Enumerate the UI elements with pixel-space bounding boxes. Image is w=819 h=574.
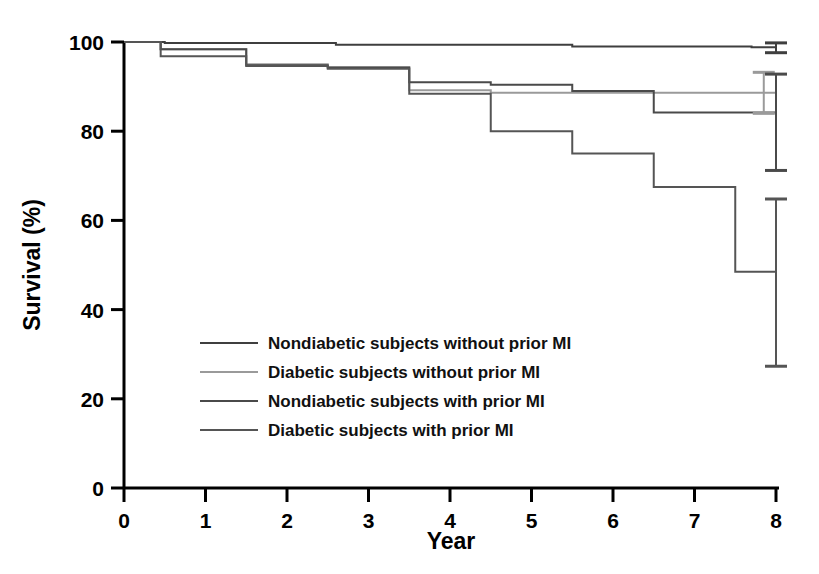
error-bars-group — [753, 43, 787, 366]
chart-canvas: 020406080100 012345678 Year Survival (%)… — [0, 0, 819, 574]
x-tick-label: 5 — [526, 509, 538, 532]
legend-label-2: Nondiabetic subjects with prior MI — [268, 392, 545, 411]
x-tick-label: 8 — [770, 509, 782, 532]
y-tick-label: 0 — [92, 477, 104, 500]
x-axis-title: Year — [427, 528, 476, 554]
chart-legend: Nondiabetic subjects without prior MIDia… — [200, 334, 571, 440]
x-tick-label: 1 — [200, 509, 212, 532]
y-axis-ticks — [111, 42, 124, 488]
series-group — [124, 42, 776, 272]
legend-label-0: Nondiabetic subjects without prior MI — [268, 334, 571, 353]
x-axis-ticks — [124, 488, 776, 502]
x-tick-label: 3 — [363, 509, 375, 532]
x-tick-label: 7 — [689, 509, 701, 532]
series-line-2 — [124, 42, 776, 115]
y-tick-label: 60 — [81, 209, 104, 232]
error-bar-2 — [765, 74, 787, 170]
y-axis-tick-labels: 020406080100 — [69, 31, 104, 500]
y-axis-title: Survival (%) — [19, 199, 45, 331]
x-tick-label: 2 — [281, 509, 293, 532]
legend-label-3: Diabetic subjects with prior MI — [268, 421, 514, 440]
error-bar-3 — [765, 199, 787, 366]
y-tick-label: 80 — [81, 120, 104, 143]
x-tick-label: 0 — [118, 509, 130, 532]
y-tick-label: 40 — [81, 299, 104, 322]
survival-chart-figure: 020406080100 012345678 Year Survival (%)… — [0, 0, 819, 574]
series-line-3 — [124, 42, 776, 272]
series-line-0 — [124, 42, 776, 47]
legend-label-1: Diabetic subjects without prior MI — [268, 363, 540, 382]
y-tick-label: 100 — [69, 31, 104, 54]
x-tick-label: 6 — [607, 509, 619, 532]
y-tick-label: 20 — [81, 388, 104, 411]
